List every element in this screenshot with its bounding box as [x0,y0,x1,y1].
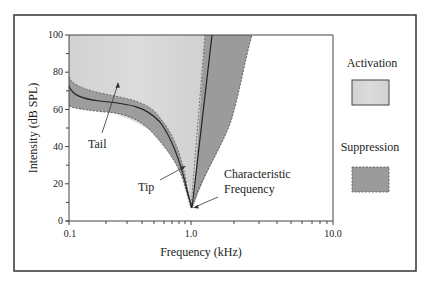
svg-text:0.1: 0.1 [64,228,77,239]
y-axis-title: Intensity (dB SPL) [26,83,40,174]
tuning-curve-figure: 0 20 40 60 80 100 0.1 1.0 10.0 Frequency… [0,0,428,289]
legend-activation-swatch [352,80,389,105]
svg-text:100: 100 [48,29,63,40]
svg-text:0: 0 [58,215,63,226]
annotation-tip: Tip [138,180,154,194]
svg-text:80: 80 [53,66,63,77]
annotation-cf-line1: Characteristic [224,167,291,181]
svg-text:20: 20 [53,178,63,189]
legend-activation-label: Activation [347,56,398,70]
svg-text:40: 40 [53,141,63,152]
svg-text:10.0: 10.0 [324,228,342,239]
x-axis-title: Frequency (kHz) [160,245,242,259]
annotation-cf-line2: Frequency [224,182,275,196]
annotation-tail: Tail [88,137,107,151]
svg-text:1.0: 1.0 [185,228,198,239]
legend-suppression-swatch [352,167,389,192]
legend-suppression-label: Suppression [341,140,400,154]
svg-text:60: 60 [53,104,63,115]
